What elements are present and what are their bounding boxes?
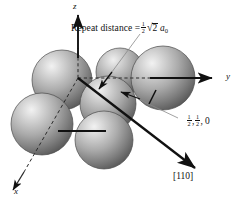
- site-coordinate-arrow: [121, 92, 140, 99]
- site-coordinate-1-denominator: 2: [187, 121, 192, 127]
- repeat-distance-arrow: [99, 72, 112, 89]
- site-coordinate-leader-line: [138, 99, 178, 118]
- repeat-distance-label: Repeat distance =12√2a0: [71, 21, 168, 35]
- repeat-distance-fraction: 12: [141, 21, 146, 35]
- site-coordinate-label: 12,12,0: [186, 114, 210, 128]
- site-coordinate-2-denominator: 2: [195, 121, 200, 127]
- site-coordinate-3: 0: [205, 116, 210, 126]
- site-coordinate-fraction-1: 12: [187, 114, 192, 128]
- axis-label-z: z: [73, 2, 77, 11]
- crystal-structure-figure: z y x Repeat distance =12√2a0 12,12,0 [1…: [0, 0, 244, 201]
- lattice-parameter-subscript: 0: [165, 27, 168, 34]
- repeat-distance-sqrt: √2: [147, 23, 158, 34]
- repeat-distance-prefix: Repeat distance =: [71, 23, 140, 33]
- radical-sign-icon: √: [147, 22, 153, 33]
- site-coordinate-fraction-2: 12: [195, 114, 200, 128]
- axis-label-x: x: [14, 187, 18, 196]
- x-axis-dashed-segment: [24, 78, 78, 172]
- repeat-distance-fraction-denominator: 2: [141, 28, 146, 34]
- direction-label-110: [110]: [173, 172, 193, 182]
- site-coordinate-separator-2: ,: [201, 116, 203, 126]
- direction-110-arrow: [78, 78, 195, 168]
- bond-tick-diagonal: [149, 90, 156, 104]
- axis-label-y: y: [226, 72, 230, 81]
